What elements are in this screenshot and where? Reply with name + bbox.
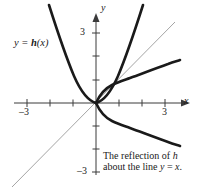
caption-line-2-text: about the line [103,161,160,172]
function-label-suffix: (x) [37,37,49,48]
caption-line-2-equals: = [164,161,175,172]
caption-line-1: The reflection of h [103,150,182,161]
x-tick-label-negative-3: –3 [19,106,29,117]
function-label-prefix: y = [14,37,31,48]
x-axis-label: x [184,95,188,106]
y-axis [92,13,100,175]
y-tick-label-positive-3: 3 [80,26,85,37]
caption-line-1-variable: h [173,150,178,161]
x-tick-label-positive-3: 3 [162,106,167,117]
function-label: y = h(x) [14,37,49,49]
caption-line-2: about the line y = x. [103,161,182,172]
y-tick-label-negative-3: –3 [77,165,87,176]
caption-line-1-text: The reflection of [103,150,173,161]
graph-figure: y x 3 –3 3 –3 y = h(x) The reflection of… [0,0,198,188]
caption-line-2-period: . [179,161,182,172]
curve-reflection-upper [96,60,180,103]
figure-caption: The reflection of h about the line y = x… [103,150,182,172]
y-axis-label: y [101,2,105,13]
curve-reflection-lower [96,103,180,146]
